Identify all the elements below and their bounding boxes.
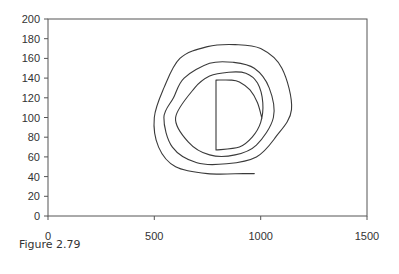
- x-tick-label: 1500: [355, 230, 379, 242]
- spiral-chart: 0 20 40 60 80 100 120 140 160 180 200 0 …: [0, 0, 399, 274]
- plot-frame: [48, 19, 367, 216]
- y-axis: [44, 19, 48, 216]
- y-tick-label: 180: [22, 33, 40, 45]
- x-tick-label: 500: [145, 230, 163, 242]
- y-tick-label: 60: [28, 151, 40, 163]
- y-tick-label: 40: [28, 171, 40, 183]
- x-axis: [48, 216, 367, 220]
- y-tick-label: 200: [22, 13, 40, 25]
- x-tick-labels: 0 500 1000 1500: [45, 230, 379, 242]
- y-tick-label: 160: [22, 52, 40, 64]
- x-tick-label: 1000: [248, 230, 272, 242]
- y-tick-label: 100: [22, 112, 40, 124]
- y-tick-label: 140: [22, 72, 40, 84]
- y-tick-label: 80: [28, 131, 40, 143]
- y-tick-labels: 0 20 40 60 80 100 120 140 160 180 200: [22, 13, 40, 222]
- spiral-line: [154, 44, 292, 174]
- y-tick-label: 20: [28, 190, 40, 202]
- y-tick-label: 120: [22, 92, 40, 104]
- y-tick-label: 0: [34, 210, 40, 222]
- figure-caption: Figure 2.79: [19, 238, 81, 251]
